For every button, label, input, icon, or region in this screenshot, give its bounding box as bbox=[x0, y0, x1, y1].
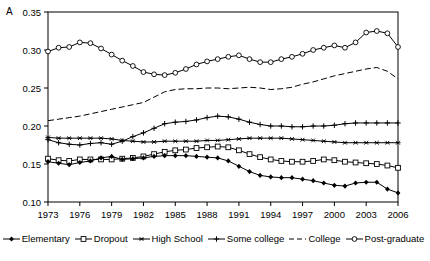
open-square-marker bbox=[81, 236, 86, 241]
legend-item[interactable]: Some college bbox=[207, 233, 289, 244]
series-post-graduate bbox=[46, 29, 401, 78]
open-square-marker bbox=[343, 159, 348, 164]
open-square-marker bbox=[258, 155, 263, 160]
legend-item-label: High School bbox=[152, 233, 203, 244]
filled-diamond-marker bbox=[247, 169, 252, 174]
cross-marker bbox=[289, 124, 294, 129]
asterisk-marker bbox=[300, 138, 305, 142]
open-circle-marker bbox=[67, 45, 72, 50]
open-square-marker bbox=[279, 159, 284, 164]
open-square-marker bbox=[364, 161, 369, 166]
open-circle-marker bbox=[385, 31, 390, 36]
open-circle-marker bbox=[364, 30, 369, 35]
x-axis-tick-label: 1976 bbox=[69, 209, 90, 220]
x-axis-tick-label: 2000 bbox=[324, 209, 345, 220]
asterisk-marker bbox=[353, 141, 358, 145]
open-circle-marker bbox=[109, 52, 114, 57]
cross-marker bbox=[215, 113, 220, 118]
open-circle-marker bbox=[300, 51, 305, 56]
asterisk-marker bbox=[138, 237, 143, 241]
cross-marker bbox=[194, 117, 199, 122]
open-square-marker bbox=[374, 162, 379, 167]
asterisk-marker bbox=[98, 136, 103, 140]
filled-diamond-marker bbox=[215, 155, 220, 160]
open-circle-marker bbox=[345, 234, 364, 244]
cross-marker bbox=[321, 123, 326, 128]
open-circle-marker bbox=[46, 49, 51, 54]
open-circle-marker bbox=[321, 45, 326, 50]
filled-diamond-marker bbox=[9, 236, 14, 241]
asterisk-marker bbox=[183, 139, 188, 143]
filled-diamond-marker bbox=[364, 180, 369, 185]
legend-item[interactable]: High School bbox=[132, 233, 207, 244]
series-line bbox=[48, 67, 398, 120]
cross-marker bbox=[77, 142, 82, 147]
cross-marker bbox=[300, 124, 305, 129]
open-square-marker bbox=[237, 148, 242, 153]
filled-diamond-marker bbox=[205, 155, 210, 160]
x-axis-tick-label: 1973 bbox=[37, 209, 58, 220]
chart-panel: A 0.100.150.200.250.300.3519731976197919… bbox=[0, 0, 430, 261]
open-square-marker bbox=[226, 145, 231, 150]
open-circle-marker bbox=[352, 236, 357, 241]
asterisk-marker bbox=[268, 136, 273, 140]
filled-diamond-marker bbox=[173, 153, 178, 158]
x-axis-tick-label: 2006 bbox=[387, 209, 408, 220]
open-circle-marker bbox=[268, 60, 273, 65]
asterisk-marker bbox=[204, 139, 209, 143]
open-square-marker bbox=[183, 147, 188, 152]
open-circle-marker bbox=[194, 62, 199, 67]
y-axis-tick-label: 0.15 bbox=[23, 159, 42, 170]
cross-marker bbox=[141, 130, 146, 135]
legend-item[interactable]: College bbox=[288, 233, 344, 244]
dashed-line-swatch bbox=[288, 234, 307, 244]
cross-marker bbox=[67, 142, 72, 147]
open-circle-marker bbox=[374, 29, 379, 34]
y-axis-tick-label: 0.20 bbox=[23, 121, 42, 132]
legend-item-label: Dropout bbox=[94, 233, 128, 244]
filled-diamond-marker bbox=[396, 190, 401, 195]
cross-marker bbox=[257, 122, 262, 127]
cross-marker bbox=[56, 140, 61, 145]
cross-marker bbox=[183, 119, 188, 124]
legend-item-label: College bbox=[308, 233, 340, 244]
cross-marker bbox=[395, 120, 400, 125]
filled-diamond-marker bbox=[268, 174, 273, 179]
filled-diamond-marker bbox=[300, 177, 305, 182]
legend-item[interactable]: Elementary bbox=[2, 233, 74, 244]
asterisk-marker bbox=[194, 139, 199, 143]
chart-legend: ElementaryDropoutHigh SchoolSome college… bbox=[0, 233, 430, 244]
open-square-marker bbox=[300, 159, 305, 164]
open-circle-marker bbox=[237, 53, 242, 58]
legend-item[interactable]: Post-graduate bbox=[345, 233, 429, 244]
open-square-marker bbox=[332, 158, 337, 163]
filled-diamond-marker bbox=[374, 180, 379, 185]
series-line bbox=[48, 116, 398, 145]
open-circle-marker bbox=[152, 72, 157, 77]
cross-marker bbox=[363, 120, 368, 125]
open-square-marker bbox=[74, 234, 93, 244]
cross-marker bbox=[385, 120, 390, 125]
open-circle-marker bbox=[258, 60, 263, 65]
open-circle-marker bbox=[332, 43, 337, 48]
open-square-marker bbox=[311, 159, 316, 164]
open-square-marker bbox=[205, 145, 210, 150]
cross-marker bbox=[374, 120, 379, 125]
asterisk-marker bbox=[56, 136, 61, 140]
open-square-marker bbox=[321, 157, 326, 162]
filled-diamond-marker bbox=[321, 180, 326, 185]
asterisk-marker bbox=[88, 136, 93, 140]
asterisk-marker bbox=[236, 137, 241, 141]
asterisk-marker bbox=[332, 140, 337, 144]
x-axis-tick-label: 2003 bbox=[356, 209, 377, 220]
cross-marker bbox=[109, 142, 114, 147]
open-circle-marker bbox=[215, 57, 220, 62]
filled-diamond-marker bbox=[226, 158, 231, 163]
x-axis-tick-label: 1991 bbox=[228, 209, 249, 220]
x-axis-tick-label: 1979 bbox=[101, 209, 122, 220]
legend-item-label: Post-graduate bbox=[365, 233, 425, 244]
open-square-marker bbox=[353, 160, 358, 165]
open-circle-marker bbox=[205, 59, 210, 64]
legend-item[interactable]: Dropout bbox=[74, 233, 132, 244]
asterisk-marker bbox=[321, 139, 326, 143]
